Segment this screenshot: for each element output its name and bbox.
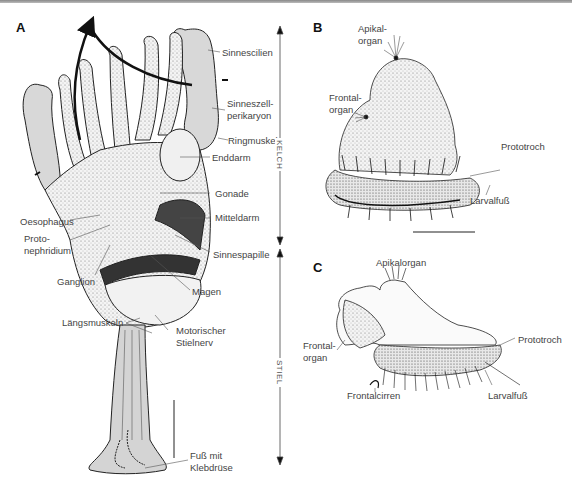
label-c-frontal-2: organ: [303, 352, 327, 363]
label-sinnescilien: Sinnescilien: [222, 47, 273, 58]
label-ringmuskel: Ringmuskel: [228, 135, 278, 146]
label-magen: Magen: [192, 286, 221, 297]
label-fuss-mit-klebdruese-2: Klebdrüse: [190, 462, 233, 473]
label-b-frontal-2: organ: [329, 104, 353, 115]
axis-label-stiel: STIEL: [275, 358, 284, 387]
label-sinneszell-2: perikaryon: [227, 110, 271, 121]
label-protonephridium-1: Proto-: [24, 233, 50, 244]
label-b-apikal-2: organ: [358, 35, 382, 46]
label-protonephridium-2: nephridium: [24, 245, 71, 256]
label-b-apikal-1: Apikal-: [358, 23, 387, 34]
label-motorischer-stielnerv-2: Stielnerv: [176, 337, 213, 348]
label-sinnespapille: Sinnespapille: [213, 249, 270, 260]
label-c-prototroch: Prototroch: [518, 334, 562, 345]
label-gonade: Gonade: [215, 188, 249, 199]
larva-c-drawing: [337, 266, 520, 391]
label-ganglion: Ganglion: [57, 276, 95, 287]
label-b-prototroch: Prototroch: [501, 141, 545, 152]
label-mitteldarm: Mitteldarm: [215, 212, 259, 223]
label-c-apikalorgan: Apikalorgan: [376, 257, 426, 268]
panel-letter-b: B: [313, 20, 322, 35]
label-motorischer-stielnerv-1: Motorischer: [176, 325, 226, 336]
larva-b-drawing: [326, 35, 480, 221]
label-b-larvalfuss: Larvalfuß: [470, 195, 510, 206]
label-fuss-mit-klebdruese-1: Fuß mit: [190, 450, 222, 461]
axis-label-kelch: KELCH: [275, 138, 284, 171]
label-c-frontal-1: Frontal-: [303, 340, 336, 351]
panel-letter-c: C: [313, 260, 322, 275]
body-region-axis: [277, 26, 283, 465]
label-oesophagus: Oesophagus: [20, 216, 74, 227]
label-sinneszell-1: Sinneszell-: [227, 98, 273, 109]
label-c-frontalcirren: Frontalcirren: [347, 390, 400, 401]
label-laengsmuskeln: Längsmuskeln: [62, 317, 123, 328]
label-enddarm: Enddarm: [212, 152, 251, 163]
label-c-larvalfuss: Larvalfuß: [488, 390, 528, 401]
label-b-frontal-1: Frontal-: [329, 92, 362, 103]
panel-letter-a: A: [16, 20, 25, 35]
anatomy-illustration: [0, 0, 572, 501]
